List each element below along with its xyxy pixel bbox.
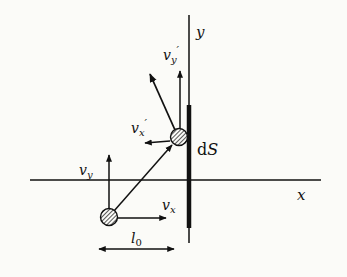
vy-label: vy: [79, 162, 93, 180]
x-axis-label: x: [297, 186, 306, 204]
vx-prime-arrow: [145, 141, 170, 143]
vx-prime-label: vx′: [131, 117, 148, 138]
y-axis-label: y: [195, 23, 205, 41]
velocity-arrow-reflected: [150, 74, 175, 130]
vy-prime-label: vy′: [163, 44, 180, 65]
collision-diagram: y x dS vy vx vy′ vx′ l0: [0, 0, 347, 277]
vx-label: vx: [162, 197, 176, 215]
distance-l0-label: l0: [131, 230, 142, 248]
surface-element-label: dS: [197, 140, 218, 159]
particle-after: [171, 129, 188, 146]
particle-before: [101, 209, 118, 226]
